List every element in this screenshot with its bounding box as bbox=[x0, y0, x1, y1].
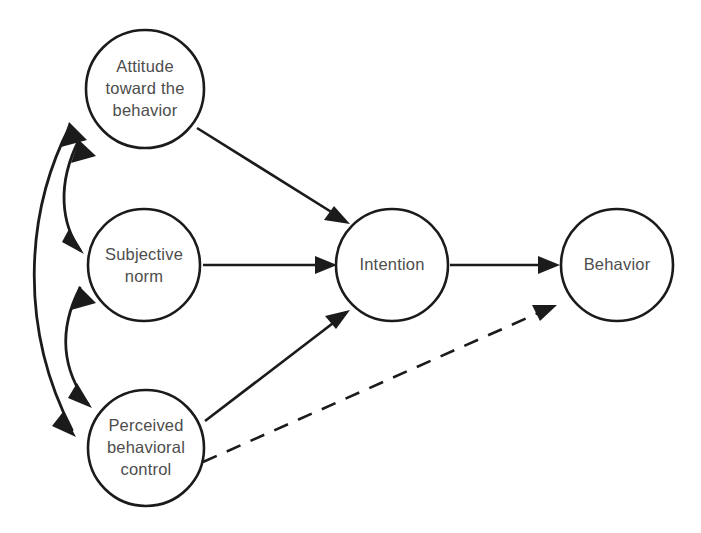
node-attitude-label-line-3: behavior bbox=[113, 101, 178, 119]
line-dashed-pbc-behavior bbox=[203, 310, 545, 462]
diagram-canvas: Attitude toward the behavior Subjective … bbox=[0, 0, 701, 533]
line-attitude-intention bbox=[197, 128, 341, 218]
edge-subjective-norm-pbc-correlation bbox=[66, 286, 96, 408]
node-attitude-label-line-2: toward the bbox=[105, 79, 184, 97]
node-subjective-norm-circle[interactable] bbox=[88, 209, 200, 321]
node-pbc-label-line-1: Perceived bbox=[108, 416, 183, 434]
arrowhead-to-intention-from-subjective-norm bbox=[315, 256, 337, 274]
theory-of-planned-behavior-diagram: Attitude toward the behavior Subjective … bbox=[0, 0, 701, 533]
arrowhead-to-behavior-from-intention bbox=[538, 256, 560, 274]
node-pbc-label-line-2: behavioral bbox=[107, 438, 185, 456]
arrowhead-down-outer-to-pbc bbox=[52, 412, 76, 437]
node-attitude-label-line-1: Attitude bbox=[116, 57, 174, 75]
edge-subjective-norm-to-intention bbox=[203, 256, 337, 274]
edge-attitude-subjective-norm-correlation bbox=[62, 140, 96, 254]
edge-pbc-to-intention bbox=[205, 310, 350, 421]
node-intention-label: Intention bbox=[359, 255, 424, 273]
node-subjective-norm-label-line-2: norm bbox=[125, 267, 163, 285]
node-subjective-norm[interactable]: Subjective norm bbox=[88, 209, 200, 321]
node-intention[interactable]: Intention bbox=[336, 209, 448, 321]
node-subjective-norm-label-line-1: Subjective bbox=[105, 245, 183, 263]
edge-intention-to-behavior bbox=[450, 256, 560, 274]
node-pbc-label-line-3: control bbox=[121, 460, 172, 478]
node-group: Attitude toward the behavior Subjective … bbox=[86, 30, 673, 506]
node-behavior-label: Behavior bbox=[584, 255, 651, 273]
node-attitude[interactable]: Attitude toward the behavior bbox=[86, 30, 204, 148]
node-perceived-behavioral-control[interactable]: Perceived behavioral control bbox=[88, 390, 204, 506]
edge-attitude-to-intention bbox=[197, 128, 350, 224]
arrowhead-down-to-subjective-norm bbox=[62, 229, 84, 254]
node-behavior[interactable]: Behavior bbox=[561, 209, 673, 321]
arrowhead-down-to-pbc bbox=[68, 383, 92, 408]
line-pbc-intention bbox=[205, 317, 341, 421]
